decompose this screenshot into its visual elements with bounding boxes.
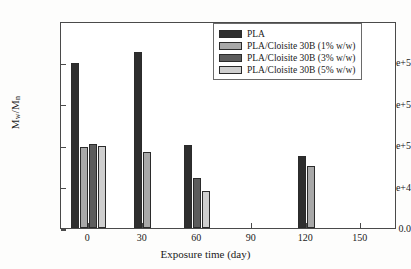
y-axis-title-base2: M: [9, 100, 21, 110]
y-axis-title-base1: M: [9, 119, 21, 129]
y-axis-title-sub1: w: [13, 113, 22, 119]
y-axis-title-sub2: n: [13, 96, 22, 100]
legend-label: PLA/Cloisite 30B (1% w/w): [247, 41, 355, 51]
x-axis-tick-label: 150: [340, 232, 380, 243]
bar: [184, 145, 192, 228]
x-axis-tick-label: 90: [231, 232, 271, 243]
legend-swatch: [219, 54, 242, 62]
x-axis-title: Exposure time (day): [0, 248, 411, 260]
legend-item[interactable]: PLA/Cloisite 30B (5% w/w): [219, 64, 355, 75]
bar: [80, 147, 88, 228]
legend-item[interactable]: PLA/Cloisite 30B (3% w/w): [219, 52, 355, 63]
legend-item[interactable]: PLA/Cloisite 30B (1% w/w): [219, 40, 355, 51]
bar: [307, 166, 315, 228]
y-axis-tick-mark: [61, 147, 66, 148]
y-axis-title-slash: /: [9, 110, 21, 113]
y-axis-tick-mark: [61, 188, 66, 189]
x-axis-tick-mark: [251, 223, 252, 228]
legend-swatch: [219, 42, 242, 50]
legend-label: PLA/Cloisite 30B (3% w/w): [247, 53, 355, 63]
y-axis-title: Mw/Mn: [9, 68, 22, 158]
bar: [71, 63, 79, 228]
chart-legend: PLAPLA/Cloisite 30B (1% w/w)PLA/Cloisite…: [213, 23, 362, 80]
bar: [143, 152, 151, 228]
legend-label: PLA: [247, 29, 265, 39]
x-axis-tick-mark: [360, 223, 361, 228]
legend-swatch: [219, 30, 242, 38]
bar: [98, 146, 106, 228]
x-axis-tick-label: 60: [176, 232, 216, 243]
y-axis-tick-mark: [61, 64, 66, 65]
bar: [134, 52, 142, 228]
legend-item[interactable]: PLA: [219, 28, 355, 39]
chart-figure: Mw/Mn 0.05e+41e+52e+52e+5 0306090120150 …: [0, 0, 411, 269]
x-axis-tick-label: 30: [122, 232, 162, 243]
bar: [298, 156, 306, 228]
legend-swatch: [219, 66, 242, 74]
bar: [202, 191, 210, 228]
y-axis-tick-mark: [61, 105, 66, 106]
y-axis-tick-mark: [61, 229, 66, 230]
x-axis-tick-label: 0: [67, 232, 107, 243]
bar: [193, 178, 201, 228]
bar: [89, 144, 97, 228]
x-axis-tick-label: 120: [285, 232, 325, 243]
legend-label: PLA/Cloisite 30B (5% w/w): [247, 65, 355, 75]
